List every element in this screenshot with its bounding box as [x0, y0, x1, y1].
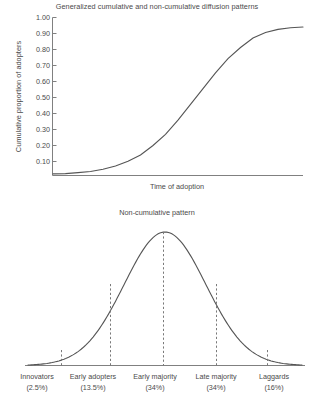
segment-name: Laggards: [259, 372, 289, 381]
segment-label-early-adopters: Early adopters (13.5%): [62, 372, 124, 393]
segment-percent: (16%): [248, 383, 300, 394]
noncumulative-bell-plot: [0, 222, 314, 372]
normal-distribution-curve: [28, 232, 302, 365]
segment-name: Early majority: [133, 372, 177, 381]
cumulative-x-axis-label: Time of adoption: [52, 182, 302, 191]
diffusion-figure: Generalized cumulative and non-cumulativ…: [0, 0, 314, 412]
segment-percent: (34%): [124, 383, 186, 394]
y-tick-marks: [53, 18, 57, 162]
segment-name: Early adopters: [70, 372, 116, 381]
segment-label-innovators: Innovators (2.5%): [10, 372, 64, 393]
segment-name: Late majority: [195, 372, 236, 381]
segment-dividers: [62, 232, 268, 366]
noncumulative-title: Non-cumulative pattern: [0, 208, 314, 217]
cumulative-s-curve: [53, 27, 303, 174]
segment-label-laggards: Laggards (16%): [248, 372, 300, 393]
cumulative-curve-plot: [0, 0, 314, 190]
segment-percent: (13.5%): [62, 383, 124, 394]
segment-label-late-majority: Late majority (34%): [186, 372, 246, 393]
segment-percent: (34%): [186, 383, 246, 394]
segment-label-early-majority: Early majority (34%): [124, 372, 186, 393]
segment-percent: (2.5%): [10, 383, 64, 394]
segment-name: Innovators: [20, 372, 54, 381]
